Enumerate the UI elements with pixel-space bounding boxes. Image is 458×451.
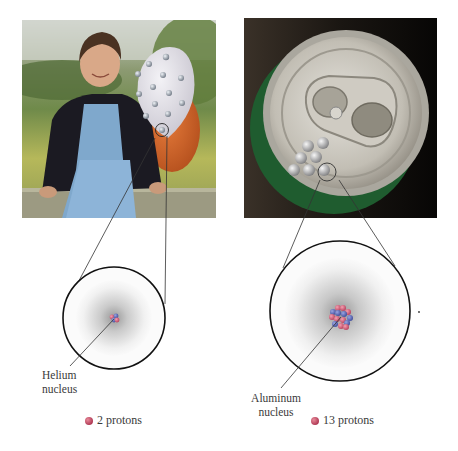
aluminum-atom (270, 241, 410, 388)
aluminum-protons-legend: 13 protons (311, 413, 374, 428)
proton-icon (311, 417, 319, 425)
helium-protons-text: 2 protons (97, 413, 142, 428)
aluminum-label-line1: Aluminum (247, 391, 305, 405)
aluminum-protons-text: 13 protons (323, 413, 374, 428)
zoom-line-left-b (165, 136, 167, 304)
helium-label-line1: Helium (42, 368, 77, 382)
helium-protons-legend: 2 protons (85, 413, 142, 428)
aluminum-label-line2: nucleus (247, 405, 305, 419)
aluminum-nucleus-label: Aluminum nucleus (247, 391, 305, 419)
proton-icon (85, 417, 93, 425)
helium-nucleus-label: Helium nucleus (42, 368, 77, 396)
helium-atom (63, 267, 165, 369)
helium-label-line2: nucleus (42, 382, 77, 396)
